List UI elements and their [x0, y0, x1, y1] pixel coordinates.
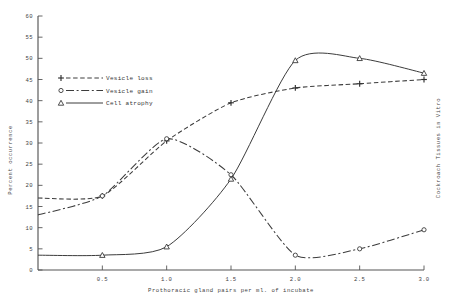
y-tick-marks [38, 16, 43, 270]
legend-marker-circle [59, 88, 63, 92]
y-tick-label: 60 [26, 13, 34, 20]
y-tick-label: 5 [29, 246, 33, 253]
legend-item: Cell atrophy [58, 100, 153, 107]
data-point [293, 253, 297, 257]
series-markers [99, 77, 426, 199]
legend-label: Vesicle loss [106, 75, 153, 82]
y-tick-label: 20 [26, 182, 34, 189]
x-tick-labels: 0.51.01.52.02.53.0 [97, 276, 430, 283]
legend-label: Vesicle gain [106, 88, 153, 95]
y-axis-title: Percent occurrence [7, 125, 14, 194]
y-tick-label: 15 [26, 204, 33, 211]
right-side-label: Cockroach Tissues in Vitro [435, 98, 442, 198]
x-tick-label: 2.5 [354, 276, 365, 283]
y-tick-labels: 051015202530354045505560 [26, 13, 34, 274]
x-tick-label: 2.0 [290, 276, 301, 283]
data-point [100, 194, 104, 198]
legend-item: Vesicle loss [58, 75, 153, 82]
y-tick-label: 55 [26, 34, 33, 41]
data-point [164, 244, 169, 249]
x-tick-label: 1.5 [225, 276, 236, 283]
y-tick-label: 10 [26, 225, 34, 232]
x-axis: 0.51.01.52.02.53.0 [38, 266, 430, 284]
y-tick-label: 0 [29, 267, 33, 274]
series-markers [100, 137, 426, 258]
chart-figure: 051015202530354045505560 0.51.01.52.02.5… [0, 0, 453, 303]
x-tick-marks [102, 266, 424, 271]
y-tick-label: 45 [26, 77, 33, 84]
data-point [165, 137, 169, 141]
x-axis-title: Prothoracic gland pairs per ml. of incub… [148, 287, 314, 294]
y-tick-label: 40 [26, 98, 34, 105]
y-axis: 051015202530354045505560 [26, 13, 43, 274]
data-point [358, 247, 362, 251]
y-tick-label: 35 [26, 119, 33, 126]
x-tick-label: 0.5 [97, 276, 108, 283]
data-series-layer [38, 53, 427, 258]
x-tick-label: 3.0 [418, 276, 429, 283]
legend-marker-triangle [58, 100, 63, 105]
x-tick-label: 1.0 [161, 276, 172, 283]
y-tick-label: 30 [26, 140, 34, 147]
chart-canvas: 051015202530354045505560 0.51.01.52.02.5… [0, 0, 453, 303]
series-markers [100, 56, 427, 258]
y-tick-label: 50 [26, 55, 34, 62]
legend-item: Vesicle gain [59, 88, 153, 95]
y-tick-label: 25 [26, 161, 33, 168]
data-point [422, 228, 426, 232]
series-line [38, 53, 424, 256]
chart-legend: Vesicle lossVesicle gainCell atrophy [58, 75, 153, 107]
legend-label: Cell atrophy [106, 100, 153, 107]
